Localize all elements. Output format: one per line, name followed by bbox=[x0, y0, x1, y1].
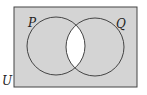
venn-diagram: P Q U bbox=[0, 0, 147, 95]
universal-set-label: U bbox=[2, 74, 13, 88]
set-q-label: Q bbox=[116, 17, 126, 31]
set-p-label: P bbox=[27, 16, 37, 30]
